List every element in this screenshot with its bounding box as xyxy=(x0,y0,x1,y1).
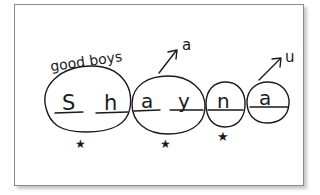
letter: a xyxy=(259,86,271,110)
letter: a xyxy=(141,89,153,113)
star-icon: ★ xyxy=(217,129,229,144)
arrow-icon xyxy=(259,58,281,80)
letter: n xyxy=(217,89,230,113)
arrow-icon xyxy=(159,50,177,73)
handwritten-phonics-diagram: good boys S h a y n a a u ★ ★ ★ xyxy=(0,0,320,195)
letter: S xyxy=(62,91,75,115)
star-icon: ★ xyxy=(160,137,171,151)
letter: h xyxy=(104,91,117,115)
arrow-label: u xyxy=(285,48,295,66)
letter: y xyxy=(178,89,190,113)
arrow-label: a xyxy=(182,36,191,54)
star-icon: ★ xyxy=(75,137,86,151)
grouping-oval-sh xyxy=(45,66,131,132)
